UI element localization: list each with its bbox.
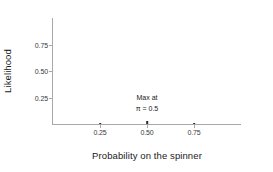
- x-axis-title: Probability on the spinner: [53, 150, 241, 161]
- data-point: [146, 121, 148, 124]
- y-tick-label: 0.50: [24, 68, 48, 75]
- x-tick-label: 0.25: [93, 129, 106, 136]
- data-point: [99, 123, 101, 125]
- x-tick-mark: [100, 125, 101, 128]
- max-annotation-line-1: Max at: [136, 93, 159, 104]
- x-tick-label: 0.50: [140, 129, 153, 136]
- y-axis-title: Likelihood: [2, 49, 13, 93]
- x-tick-mark: [194, 125, 195, 128]
- y-tick-label: 0.25: [24, 94, 48, 101]
- likelihood-chart-figure: Likelihood 0.250.500.75 0.250.500.75 Max…: [0, 0, 273, 172]
- x-tick-label: 0.75: [187, 129, 200, 136]
- x-tick-mark: [147, 125, 148, 128]
- y-axis-title-container: Likelihood: [0, 18, 14, 124]
- max-annotation: Max atπ = 0.5: [136, 93, 159, 115]
- y-tick-label: 0.75: [24, 41, 48, 48]
- data-point: [193, 123, 195, 125]
- max-annotation-line-2: π = 0.5: [136, 104, 159, 115]
